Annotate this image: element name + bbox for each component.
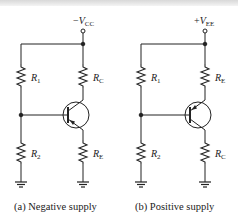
caption-a: (a) Negative supply	[14, 201, 98, 213]
label-re-b: RE	[214, 72, 225, 85]
circuit-a	[15, 29, 89, 187]
circuit-b	[135, 29, 211, 187]
supply-label-a: −VCC	[73, 15, 94, 28]
emitter-arrow-icon	[70, 120, 76, 125]
circuit-diagram: −VCC R1 R2 RC RE +VEE R1 R2 RE RC (a) Ne…	[0, 0, 238, 224]
label-r1-a: R1	[30, 72, 41, 85]
resistor-r2-a	[17, 140, 25, 164]
resistor-rc-a	[79, 64, 87, 88]
ground-icon	[15, 182, 27, 187]
resistor-re-a	[79, 140, 87, 164]
ground-icon	[77, 182, 89, 187]
label-rc-a: RC	[92, 72, 104, 85]
resistor-re-b	[201, 64, 209, 88]
ground-icon	[199, 182, 211, 187]
label-r2-b: R2	[150, 148, 161, 161]
resistor-r1-b	[137, 64, 145, 88]
label-rc-b: RC	[214, 148, 226, 161]
resistor-r1-a	[17, 64, 25, 88]
resistor-r2-b	[137, 140, 145, 164]
label-r1-b: R1	[150, 72, 161, 85]
resistor-rc-b	[201, 140, 209, 164]
label-re-a: RE	[92, 148, 103, 161]
supply-label-b: +VEE	[194, 15, 214, 28]
supply-terminal-a	[81, 29, 85, 33]
ground-icon	[135, 182, 147, 187]
label-r2-a: R2	[30, 148, 41, 161]
caption-b: (b) Positive supply	[135, 201, 215, 213]
emitter-arrow-icon	[192, 105, 198, 110]
supply-terminal-b	[203, 29, 207, 33]
